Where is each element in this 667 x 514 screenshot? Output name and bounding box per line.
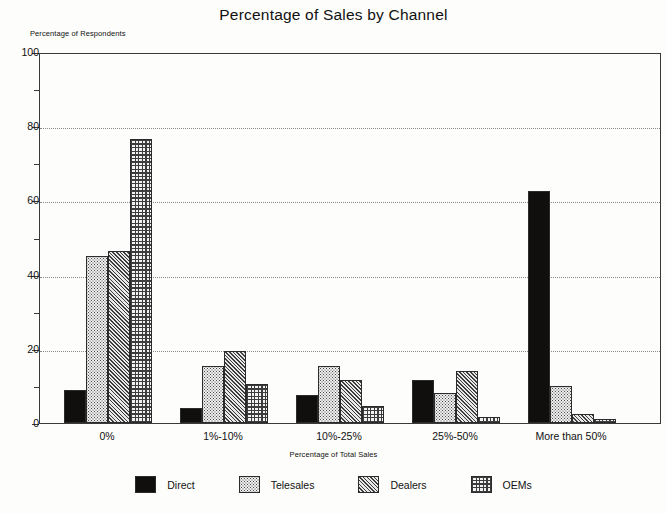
x-tick-label-2: 10%-25% xyxy=(279,430,399,442)
x-axis-label: Percentage of Total Sales xyxy=(0,450,667,459)
y-tick-label-80: 80 xyxy=(0,120,39,132)
legend-label-telesales: Telesales xyxy=(271,479,315,491)
chart-legend: DirectTelesalesDealersOEMs xyxy=(0,476,667,493)
y-tick-label-60: 60 xyxy=(0,194,39,206)
x-tick-label-4: More than 50% xyxy=(511,430,631,442)
bar-chart: Percentage of Sales by Channel Percentag… xyxy=(0,0,667,514)
bar-dealers-1 xyxy=(224,351,246,423)
bar-direct-1 xyxy=(180,408,202,423)
legend-label-dealers: Dealers xyxy=(390,479,426,491)
bar-telesales-4 xyxy=(550,386,572,423)
bar-direct-0 xyxy=(64,390,86,423)
bar-telesales-1 xyxy=(202,366,224,424)
legend-label-direct: Direct xyxy=(167,479,194,491)
y-tick-label-20: 20 xyxy=(0,343,39,355)
bar-dealers-2 xyxy=(340,380,362,423)
y-tick-label-0: 0 xyxy=(0,417,39,429)
legend-swatch-dealers xyxy=(358,476,379,493)
bar-oems-0 xyxy=(130,139,152,423)
x-tick-label-3: 25%-50% xyxy=(395,430,515,442)
bar-oems-3 xyxy=(478,417,500,423)
bar-dealers-3 xyxy=(456,371,478,423)
legend-swatch-telesales xyxy=(239,476,260,493)
y-tick-label-40: 40 xyxy=(0,269,39,281)
legend-item-oems[interactable]: OEMs xyxy=(471,476,532,493)
bar-telesales-0 xyxy=(86,256,108,423)
y-tick-label-100: 100 xyxy=(0,46,39,58)
bar-dealers-0 xyxy=(108,251,130,424)
bar-dealers-4 xyxy=(572,414,594,423)
legend-item-direct[interactable]: Direct xyxy=(135,476,194,493)
bar-oems-4 xyxy=(594,419,616,423)
bar-direct-3 xyxy=(412,380,434,423)
x-tick-label-0: 0% xyxy=(47,430,167,442)
chart-title: Percentage of Sales by Channel xyxy=(0,6,667,24)
x-tick-label-1: 1%-10% xyxy=(163,430,283,442)
legend-item-dealers[interactable]: Dealers xyxy=(358,476,426,493)
bar-oems-2 xyxy=(362,406,384,423)
legend-swatch-oems xyxy=(471,476,492,493)
legend-swatch-direct xyxy=(135,476,156,493)
bar-direct-2 xyxy=(296,395,318,423)
y-axis-label: Percentage of Respondents xyxy=(30,29,125,38)
legend-item-telesales[interactable]: Telesales xyxy=(239,476,315,493)
plot-area xyxy=(39,53,661,424)
legend-label-oems: OEMs xyxy=(503,479,532,491)
bar-telesales-3 xyxy=(434,393,456,423)
bar-telesales-2 xyxy=(318,366,340,424)
bar-direct-4 xyxy=(528,191,550,423)
bar-oems-1 xyxy=(246,384,268,423)
gridline-80 xyxy=(40,128,660,129)
